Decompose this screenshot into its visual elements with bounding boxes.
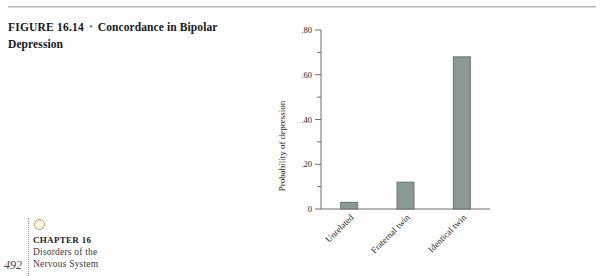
- chapter-subtitle-line-1: Disorders of the: [33, 246, 153, 258]
- chapter-footer: CHAPTER 16 Disorders of the Nervous Syst…: [33, 219, 153, 270]
- figure-number: FIGURE 16.14: [8, 21, 84, 33]
- bar-identical-twin: [453, 57, 470, 209]
- bar-chart: Probability of depression 0.20.40.60.80 …: [268, 14, 498, 276]
- y-axis-ticks: 0.20.40.60.80: [301, 25, 321, 214]
- x-axis-category-labels: UnrelatedFraternal twinIdentical twin: [323, 212, 468, 255]
- caption-bullet-icon: •: [84, 20, 98, 32]
- x-category-label: Identical twin: [426, 212, 469, 255]
- y-tick-label: .60: [301, 70, 312, 80]
- footer-dotted-divider: [28, 218, 29, 276]
- y-tick-label: 0: [308, 204, 312, 214]
- chapter-dot-icon: [34, 219, 45, 230]
- bar-unrelated: [341, 202, 358, 209]
- chart-svg: Probability of depression 0.20.40.60.80 …: [268, 14, 498, 276]
- chapter-subtitle-line-2: Nervous System: [33, 258, 153, 270]
- x-category-label: Fraternal twin: [369, 212, 412, 255]
- chapter-label: CHAPTER 16: [33, 234, 153, 246]
- y-tick-label: .40: [301, 115, 312, 125]
- y-axis-title: Probability of depression: [277, 100, 287, 191]
- figure-caption: FIGURE 16.14•Concordance in Bipolar Depr…: [8, 18, 258, 53]
- page-number: 492: [4, 258, 22, 273]
- y-tick-label: .20: [301, 159, 312, 169]
- x-category-label: Unrelated: [323, 212, 356, 245]
- bar-fraternal-twin: [397, 182, 414, 209]
- page-top-rule-shadow: [8, 7, 596, 8]
- bar-group: [341, 57, 471, 209]
- y-tick-label: .80: [301, 25, 312, 35]
